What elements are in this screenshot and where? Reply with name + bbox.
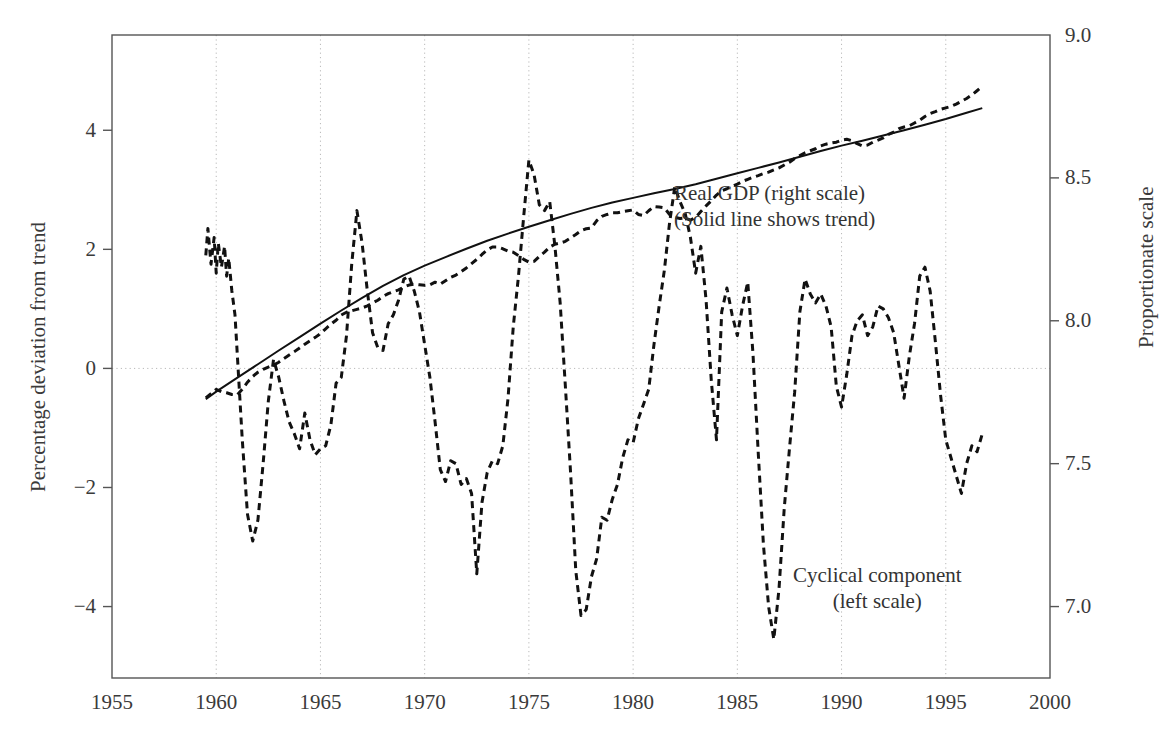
annotation-real-gdp-line2: (Solid line shows trend) — [674, 207, 875, 233]
series-path-0 — [206, 86, 982, 398]
ytick-label-right-0: 9.0 — [1065, 25, 1091, 46]
xtick-label-2: 1965 — [260, 692, 380, 713]
annotation-cyclical-line1: Cyclical component — [793, 563, 962, 589]
data-series — [206, 86, 982, 639]
annotation-real-gdp-line1: Real GDP (right scale) — [674, 181, 875, 207]
annotation-cyclical: Cyclical component (left scale) — [793, 563, 962, 614]
chart-plot-area — [0, 0, 1167, 747]
ytick-label-right-4: 7.0 — [1065, 596, 1091, 617]
xtick-label-4: 1975 — [469, 692, 589, 713]
xtick-label-3: 1970 — [365, 692, 485, 713]
xtick-label-8: 1995 — [886, 692, 1006, 713]
ytick-label-right-3: 7.5 — [1065, 453, 1091, 474]
annotation-real-gdp: Real GDP (right scale) (Solid line shows… — [674, 181, 875, 232]
xtick-label-6: 1985 — [677, 692, 797, 713]
gdp-cyclical-chart-figure: 4 2 0 −2 −4 9.0 8.5 8.0 7.5 7.0 1955 196… — [0, 0, 1167, 747]
series-path-1 — [206, 108, 982, 399]
ytick-label-left-0: 4 — [0, 120, 96, 141]
annotation-cyclical-line2: (left scale) — [793, 589, 962, 615]
xtick-label-7: 1990 — [782, 692, 902, 713]
ytick-label-left-4: −4 — [0, 596, 96, 617]
y-axis-title-right: Proportionate scale — [1136, 186, 1157, 348]
xtick-label-1: 1960 — [156, 692, 276, 713]
ytick-label-right-2: 8.0 — [1065, 310, 1091, 331]
axis-ticks — [103, 130, 1059, 606]
xtick-label-0: 1955 — [52, 692, 172, 713]
ytick-label-right-1: 8.5 — [1065, 167, 1091, 188]
xtick-label-5: 1980 — [573, 692, 693, 713]
xtick-label-9: 2000 — [990, 692, 1110, 713]
y-axis-title-left: Percentage deviation from trend — [28, 222, 49, 492]
